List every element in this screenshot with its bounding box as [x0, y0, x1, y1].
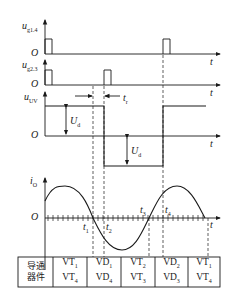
origin-label: O: [31, 48, 38, 58]
table-cell: VT2 VT3: [121, 257, 155, 287]
t2-label: t2: [106, 222, 112, 234]
ug14-label: ug1.4: [22, 21, 38, 33]
t1-label: t1: [83, 222, 89, 234]
table-cell: VT1 VT4: [188, 257, 220, 287]
tr-label: tr: [123, 93, 128, 105]
table-cell: VD1 VD4: [87, 257, 121, 287]
origin-label: O: [31, 212, 38, 222]
waveform-diagram: [0, 0, 238, 300]
table-cell: VT1 VT4: [53, 257, 87, 287]
ug14-pulse-2: [163, 39, 170, 54]
t-label: t: [210, 57, 213, 67]
ug23-label: ug2.3: [22, 60, 38, 72]
t-label: t: [210, 220, 213, 230]
ug14-pulse-1: [45, 39, 52, 54]
t-label: t: [210, 88, 213, 98]
ug23-pulse-2: [104, 70, 111, 85]
t3-label: t3: [140, 205, 146, 217]
t-label: t: [210, 139, 213, 149]
origin-label: O: [31, 130, 38, 140]
ud-label-1: Ud: [70, 116, 80, 128]
io-label: iO: [30, 176, 37, 188]
ug23-pulse-1: [45, 70, 52, 85]
t4-label: t4: [165, 205, 171, 217]
origin-label: O: [31, 79, 38, 89]
table-header: 导通器件: [18, 257, 53, 287]
table-cell: VD2 VD3: [155, 257, 188, 287]
ud-label-2: Ud: [131, 146, 141, 158]
uuv-label: uUV: [24, 92, 38, 104]
